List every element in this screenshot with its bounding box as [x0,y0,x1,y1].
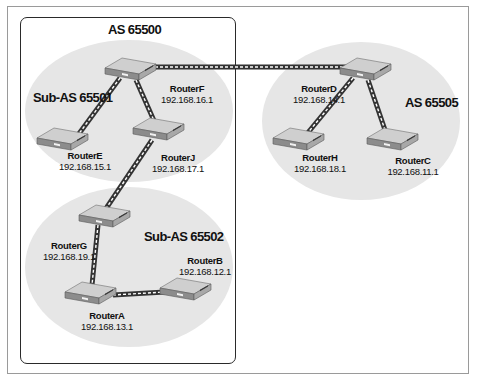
router-name: RouterF [154,83,220,94]
router-ip: 192.168.11.1 [380,166,446,177]
router-ip: 192.168.15.1 [52,161,118,172]
router-e-label: RouterE 192.168.15.1 [52,150,118,172]
router-name: RouterD [286,83,352,94]
router-h-icon [273,128,324,150]
router-name: RouterA [74,310,140,321]
router-name: RouterH [287,152,353,163]
router-name: RouterJ [145,152,211,163]
as-65500-label: AS 65500 [108,22,161,37]
router-f-label: RouterF 192.168.16.1 [154,83,220,105]
router-h-label: RouterH 192.168.18.1 [287,152,353,174]
router-ip: 192.168.18.1 [287,163,353,174]
router-c-label: RouterC 192.168.11.1 [380,155,446,177]
router-d-icon [340,58,391,80]
router-b-label: RouterB 192.168.12.1 [172,255,238,277]
router-g-icon [79,205,130,227]
router-g-label: RouterG 192.168.19.1 [36,240,102,262]
router-ip: 192.168.16.1 [154,94,220,105]
router-f-icon [105,58,156,80]
router-ip: 192.168.19.1 [36,251,102,262]
router-a-label: RouterA 192.168.13.1 [74,310,140,332]
sub-as-65501-label: Sub-AS 65501 [33,90,113,105]
as-65505-label: AS 65505 [405,95,458,110]
sub-as-65502-label: Sub-AS 65502 [144,229,224,244]
router-j-icon [133,118,184,140]
network-graphics [0,0,477,381]
router-a-icon [65,282,116,304]
router-ip: 192.168.13.1 [74,321,140,332]
router-d-label: RouterD 192.168.14.1 [286,83,352,105]
router-name: RouterC [380,155,446,166]
router-name: RouterG [36,240,102,251]
router-name: RouterE [52,150,118,161]
router-c-icon [367,128,418,150]
router-j-label: RouterJ 192.168.17.1 [145,152,211,174]
router-ip: 192.168.17.1 [145,163,211,174]
router-ip: 192.168.14.1 [286,94,352,105]
router-name: RouterB [172,255,238,266]
router-b-icon [160,278,211,300]
router-ip: 192.168.12.1 [172,266,238,277]
